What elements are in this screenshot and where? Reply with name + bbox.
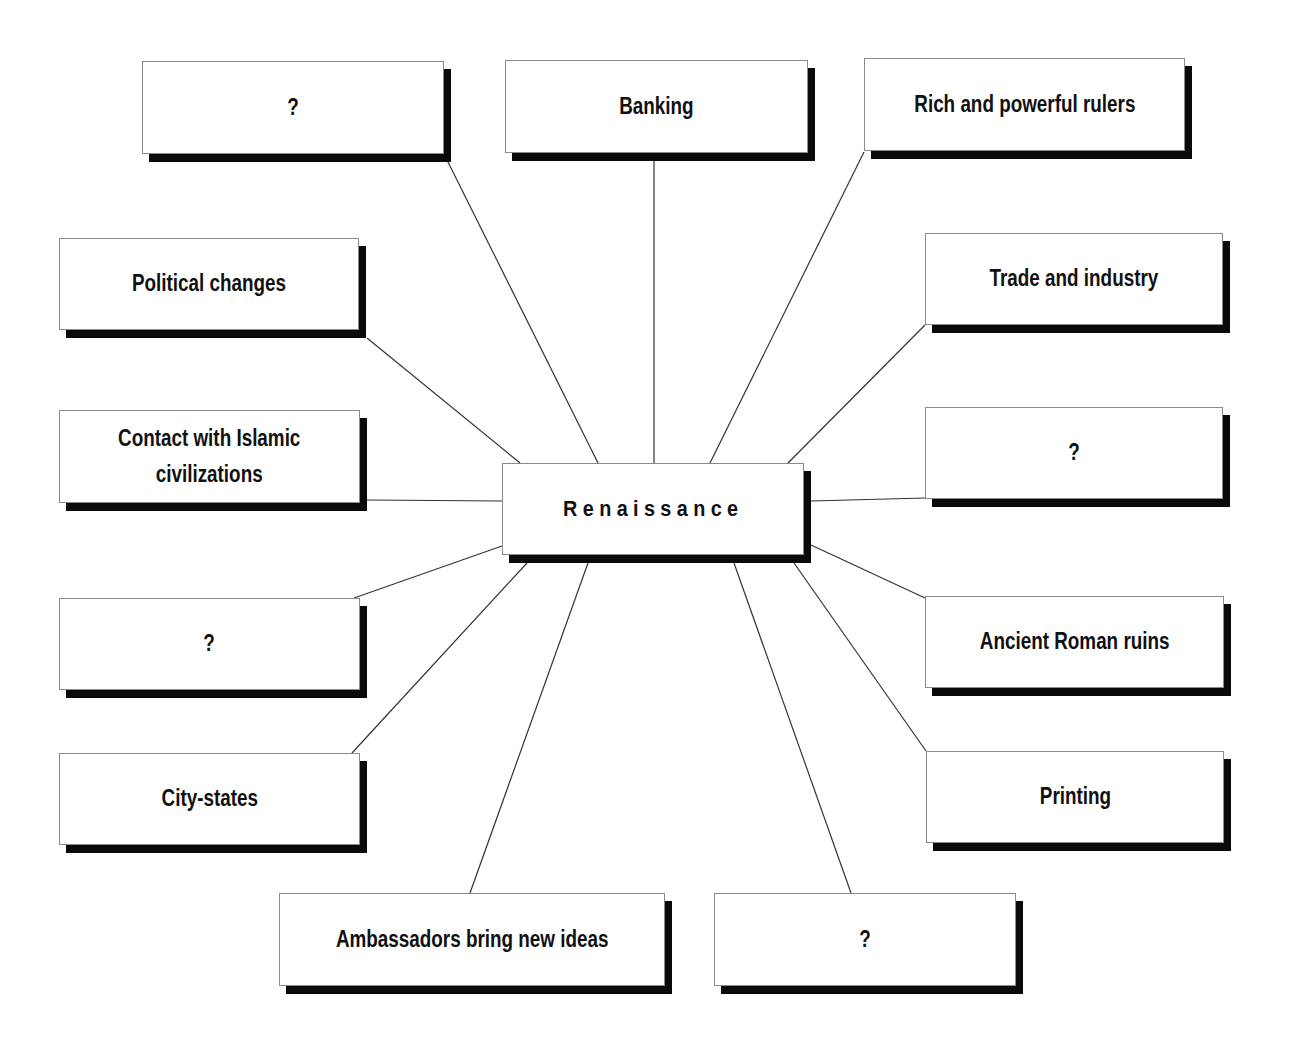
connector-contact-islamic: [367, 500, 502, 501]
node-label: Ambassadors bring new ideas: [336, 922, 609, 958]
node-label: Trade and industry: [990, 261, 1159, 297]
node-label: ?: [859, 922, 871, 958]
connector-rich-rulers: [710, 152, 864, 463]
connector-top-left-unknown: [446, 158, 598, 463]
node-city-states: City-states: [59, 753, 360, 845]
node-top-left-unknown: ?: [142, 61, 444, 154]
node-label: Rich and powerful rulers: [914, 87, 1135, 123]
center-node-label: Renaissance: [563, 492, 743, 526]
connector-right-unknown: [811, 498, 925, 501]
node-label: Ancient Roman ruins: [980, 624, 1170, 660]
connector-trade-industry: [788, 325, 925, 463]
node-ambassadors: Ambassadors bring new ideas: [279, 893, 665, 986]
connector-bottom-unknown: [734, 563, 851, 893]
node-left-unknown: ?: [59, 598, 360, 690]
node-banking: Banking: [505, 60, 808, 153]
connector-left-unknown: [354, 546, 502, 598]
center-node-renaissance: Renaissance: [502, 463, 804, 555]
connector-ancient-roman-ruins: [811, 545, 925, 598]
connector-ambassadors: [470, 563, 588, 893]
node-label: Political changes: [132, 266, 286, 302]
node-label: Banking: [619, 89, 693, 125]
node-contact-islamic: Contact with Islamic civilizations: [59, 410, 360, 503]
node-rich-rulers: Rich and powerful rulers: [864, 58, 1185, 151]
node-label: Printing: [1039, 779, 1110, 815]
node-trade-industry: Trade and industry: [925, 233, 1223, 325]
connector-city-states: [352, 563, 527, 753]
node-label: ?: [287, 90, 299, 126]
connector-printing: [794, 563, 926, 751]
node-label: Contact with Islamic civilizations: [118, 421, 300, 492]
node-printing: Printing: [926, 751, 1224, 843]
node-label: ?: [1068, 435, 1080, 471]
node-bottom-unknown: ?: [714, 893, 1016, 986]
connector-political-changes: [367, 338, 520, 463]
node-political-changes: Political changes: [59, 238, 359, 330]
node-right-unknown: ?: [925, 407, 1223, 499]
node-label: ?: [204, 626, 216, 662]
node-label: City-states: [161, 781, 257, 817]
node-ancient-roman-ruins: Ancient Roman ruins: [925, 596, 1224, 688]
